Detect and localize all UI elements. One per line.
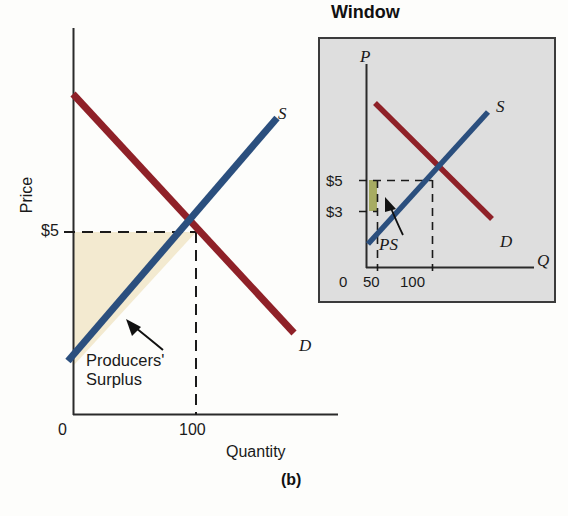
- inset-demand-curve-label: D: [500, 232, 512, 252]
- inset-supply-curve-label: S: [496, 97, 505, 117]
- inset-demand-curve: [375, 103, 492, 219]
- inset-quantity-axis-letter: Q: [537, 251, 549, 271]
- ps-pointer-arrowhead: [385, 197, 396, 212]
- figure-caption: (b): [281, 471, 301, 489]
- inset-chart-canvas: [320, 39, 554, 301]
- y-tick-label-price: $5: [41, 222, 59, 240]
- x-tick-label-quantity: 100: [179, 421, 206, 439]
- inset-price-tick-5: $5: [326, 172, 343, 189]
- supply-curve-label: S: [278, 104, 287, 124]
- producers-surplus-annotation: Producers' Surplus: [86, 351, 164, 389]
- inset-quantity-tick-0: 0: [339, 273, 347, 290]
- ps-label: PS: [379, 235, 398, 255]
- inset-quantity-tick-100: 100: [400, 273, 425, 290]
- producers-surplus-region: [74, 232, 196, 365]
- ps-highlight-region: [369, 180, 377, 211]
- producers-surplus-annotation-line2: Surplus: [86, 370, 164, 389]
- producers-surplus-annotation-line1: Producers': [86, 351, 164, 370]
- inset-price-tick-3: $3: [326, 203, 343, 220]
- figure-panel: Price Quantity $5 100 0 S D Producers' S…: [0, 0, 568, 516]
- x-axis-title: Quantity: [226, 443, 286, 461]
- y-axis-title: Price: [18, 160, 36, 230]
- main-chart: Price Quantity $5 100 0 S D Producers' S…: [0, 0, 340, 470]
- inset-price-axis-letter: P: [360, 47, 370, 67]
- inset-supply-curve: [368, 112, 488, 244]
- inset-quantity-tick-50: 50: [363, 273, 380, 290]
- surplus-pointer-arrowhead: [126, 319, 141, 336]
- inset-window-panel: P Q S D $5 $3 0 50 100 PS: [318, 37, 556, 303]
- demand-curve-label: D: [299, 336, 311, 356]
- origin-label: 0: [58, 421, 67, 439]
- inset-window-title: Window: [331, 2, 400, 23]
